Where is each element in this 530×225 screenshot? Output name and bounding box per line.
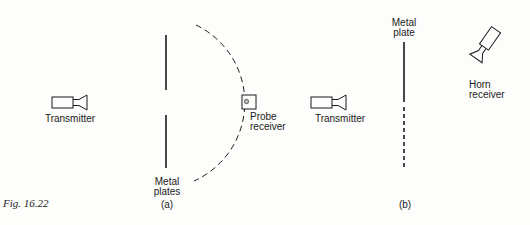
horn-receiver-icon bbox=[470, 25, 502, 62]
transmitter-a-icon bbox=[52, 95, 87, 110]
probe-receiver-icon bbox=[242, 95, 256, 109]
transmitter-a-label: Transmitter bbox=[40, 113, 100, 124]
panel-a-label: (a) bbox=[154, 199, 180, 210]
transmitter-b-label: Transmitter bbox=[310, 113, 370, 124]
horn-receiver-label-line2: receiver bbox=[469, 89, 505, 100]
figure-caption: Fig. 16.22 bbox=[3, 197, 49, 209]
metal-plate-label-line2: plate bbox=[384, 27, 424, 38]
probe-receiver-label-line2: receiver bbox=[250, 121, 286, 132]
figure-16-22: Transmitter Metal plates (a) Probe recei… bbox=[0, 0, 530, 225]
panel-b-label: (b) bbox=[392, 199, 418, 210]
probe-path-arc bbox=[194, 25, 245, 181]
metal-plates-label-line2: plates bbox=[144, 186, 190, 197]
transmitter-b-icon bbox=[311, 95, 346, 110]
